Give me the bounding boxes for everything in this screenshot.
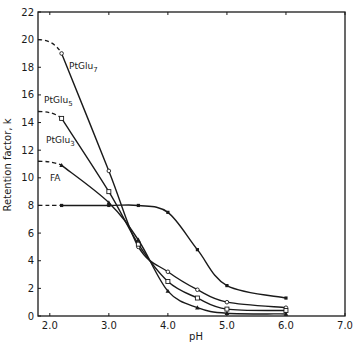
x-tick-label: 3.0 — [101, 320, 117, 331]
circle-marker — [60, 52, 64, 56]
y-tick-label: 6 — [28, 228, 34, 239]
series-line — [62, 53, 286, 307]
series-line — [62, 165, 286, 314]
x-marker — [284, 296, 287, 299]
circle-marker — [225, 300, 229, 304]
square-marker — [107, 190, 111, 194]
series-ptglu7: PtGlu7 — [38, 40, 288, 310]
square-marker — [60, 116, 64, 120]
series-label: FA — [50, 173, 61, 183]
plot-frame — [38, 12, 345, 316]
y-tick-label: 16 — [21, 89, 34, 100]
x-marker — [196, 248, 199, 251]
x-marker — [137, 204, 140, 207]
circle-marker — [166, 270, 170, 274]
circle-marker — [107, 169, 111, 173]
y-tick-label: 8 — [28, 200, 34, 211]
square-marker — [166, 279, 170, 283]
y-axis-title: Retention factor, k — [2, 118, 13, 211]
x-axis-title: pH — [189, 331, 203, 342]
circle-marker — [196, 288, 200, 292]
y-tick-label: 14 — [21, 117, 34, 128]
series-ptglu3: PtGlu3 — [38, 135, 288, 316]
x-marker — [107, 204, 110, 207]
x-tick-label: 7.0 — [337, 320, 353, 331]
series-label: PtGlu7 — [69, 61, 98, 74]
y-tick-label: 12 — [21, 145, 34, 156]
y-tick-label: 22 — [21, 7, 34, 18]
x-tick-label: 5.0 — [219, 320, 235, 331]
x-marker — [166, 211, 169, 214]
square-marker — [195, 296, 199, 300]
series-label: PtGlu5 — [44, 95, 73, 108]
dashed-extrapolation — [38, 40, 62, 54]
y-tick-label: 20 — [21, 34, 34, 45]
x-marker — [225, 284, 228, 287]
plot-axes: 2.03.04.05.06.07.00246810121416182022 — [21, 7, 353, 332]
x-tick-label: 2.0 — [42, 320, 58, 331]
retention-factor-chart: 2.03.04.05.06.07.00246810121416182022 Pt… — [0, 0, 356, 347]
y-tick-label: 18 — [21, 62, 34, 73]
series-line — [62, 205, 286, 298]
square-marker — [225, 307, 229, 311]
y-tick-label: 4 — [28, 255, 34, 266]
x-tick-label: 4.0 — [160, 320, 176, 331]
y-tick-label: 2 — [28, 283, 34, 294]
plot-series: PtGlu7PtGlu5PtGlu3FA — [38, 40, 288, 316]
series-ptglu5: PtGlu5 — [38, 95, 288, 312]
x-tick-label: 6.0 — [278, 320, 294, 331]
series-label: PtGlu3 — [46, 135, 75, 148]
y-tick-label: 10 — [21, 172, 34, 183]
y-tick-label: 0 — [28, 311, 34, 322]
series-line — [62, 118, 286, 310]
dashed-extrapolation — [38, 111, 62, 118]
x-marker — [60, 204, 63, 207]
series-fa: FA — [38, 173, 288, 300]
dashed-extrapolation — [38, 161, 62, 165]
